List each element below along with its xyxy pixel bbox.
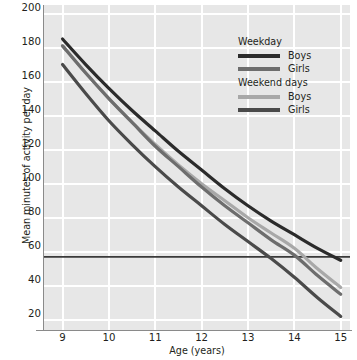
legend-swatch-icon: [238, 108, 280, 112]
legend-item[interactable]: Girls: [238, 62, 350, 75]
legend-item[interactable]: Girls: [238, 103, 350, 116]
x-tick-label: 15: [326, 333, 356, 343]
y-tick-label: 140: [11, 105, 41, 115]
legend-item-label: Boys: [288, 50, 311, 62]
legend-group: WeekdayBoysGirls: [238, 36, 350, 75]
y-tick-label: 160: [11, 71, 41, 81]
legend-item-label: Girls: [288, 63, 310, 75]
legend-item-label: Girls: [288, 104, 310, 116]
y-tick-label: 200: [11, 3, 41, 13]
y-tick-label: 180: [11, 37, 41, 47]
activity-decline-line-chart: Mean minutes of activity per day 2001801…: [0, 0, 357, 360]
y-tick-label: 100: [11, 173, 41, 183]
y-tick-label: 120: [11, 139, 41, 149]
x-tick-label: 9: [48, 333, 78, 343]
x-tick-label: 11: [140, 333, 170, 343]
legend-item-label: Boys: [288, 91, 311, 103]
x-tick-label: 14: [279, 333, 309, 343]
x-tick-label: 12: [187, 333, 217, 343]
y-tick-label: 60: [11, 241, 41, 251]
y-axis-line: [43, 5, 44, 331]
chart-legend: WeekdayBoysGirlsWeekend daysBoysGirls: [238, 36, 350, 116]
legend-group-title: Weekend days: [238, 77, 350, 89]
x-axis-title: Age (years): [44, 345, 350, 356]
x-tick-label: 10: [94, 333, 124, 343]
y-tick-label: 40: [11, 275, 41, 285]
x-axis-line: [36, 330, 352, 331]
legend-group-title: Weekday: [238, 36, 350, 48]
legend-swatch-icon: [238, 95, 280, 99]
legend-swatch-icon: [238, 67, 280, 71]
legend-group: Weekend daysBoysGirls: [238, 77, 350, 116]
legend-swatch-icon: [238, 54, 280, 58]
legend-item[interactable]: Boys: [238, 49, 350, 62]
x-tick-label: 13: [233, 333, 263, 343]
y-tick-label: 80: [11, 207, 41, 217]
y-tick-label: 20: [11, 309, 41, 319]
legend-item[interactable]: Boys: [238, 90, 350, 103]
